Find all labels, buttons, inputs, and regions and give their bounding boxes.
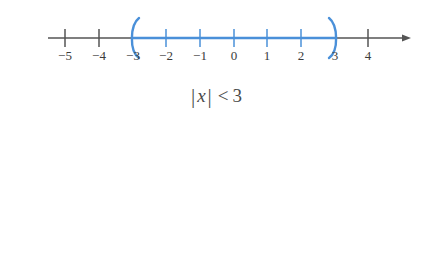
number-line-figure-greater-than: −5 −4 −3 −2 −1 0 1 2 3 4 |x|>3 — [0, 128, 432, 257]
number-line-graphic-greater-than — [0, 52, 432, 132]
